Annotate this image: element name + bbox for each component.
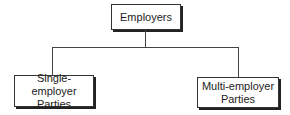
child-node-label-line1: Single-employer <box>15 72 93 98</box>
root-node-label: Employers <box>120 11 172 24</box>
connector-root-vertical <box>145 30 146 47</box>
connector-right-vertical <box>238 47 239 77</box>
connector-horizontal <box>52 47 239 48</box>
child-node-single-employer: Single-employer Parties <box>14 75 94 107</box>
child-node-multi-employer: Multi-employer Parties <box>197 77 279 108</box>
root-node-employers: Employers <box>111 4 181 30</box>
child-node-label-line2: Parties <box>221 93 255 106</box>
child-node-label-line2: Parties <box>37 98 71 111</box>
child-node-label-line1: Multi-employer <box>202 80 274 93</box>
